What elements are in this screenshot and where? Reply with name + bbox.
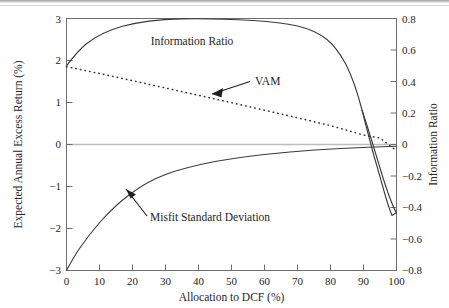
x-tick-label: 10 [94, 275, 106, 287]
right-tick-label: 0.2 [402, 107, 416, 119]
chart-svg: 3 2 1 0 −1 −2 −3 0.8 0.6 0.4 0.2 0 −0.2 … [0, 0, 449, 308]
x-tick-label: 50 [226, 275, 238, 287]
series-information-ratio [67, 19, 397, 216]
series-vam [67, 67, 397, 151]
y-axis-label: Expected Annual Excess Return (%) [12, 60, 25, 228]
left-tick-label: −1 [49, 180, 61, 192]
annotation-misfit-standard-deviation: Misfit Standard Deviation [150, 211, 270, 223]
right-tick-label: −0.2 [402, 170, 422, 182]
right-tick-label: −0.6 [402, 233, 422, 245]
left-tick-label: −2 [49, 222, 61, 234]
left-tick-label: 3 [56, 13, 62, 25]
annotation-misfit-arrow [126, 189, 147, 216]
x-tick-label: 90 [358, 275, 370, 287]
right-axis-ticks [391, 19, 397, 271]
right-tick-label: 0.8 [402, 13, 416, 25]
x-axis-label: Allocation to DCF (%) [179, 291, 285, 304]
x-tick-label: 30 [160, 275, 172, 287]
left-tick-labels: 3 2 1 0 −1 −2 −3 [49, 13, 61, 276]
annotation-vam: VAM [255, 75, 280, 87]
left-tick-label: 1 [56, 96, 62, 108]
right-tick-label: 0 [402, 138, 408, 150]
right-tick-label: 0.6 [402, 44, 416, 56]
x-tick-label: 100 [388, 275, 405, 287]
x-tick-label: 80 [325, 275, 337, 287]
x-tick-label: 60 [259, 275, 271, 287]
x-tick-label: 70 [292, 275, 304, 287]
x-tick-label: 0 [64, 275, 70, 287]
x-tick-label: 20 [127, 275, 139, 287]
series-information-ratio-tail [362, 110, 397, 213]
series-misfit-standard-deviation [67, 146, 397, 270]
left-tick-label: −3 [49, 264, 61, 276]
right-tick-labels: 0.8 0.6 0.4 0.2 0 −0.2 −0.4 −0.6 −0.8 [402, 13, 422, 276]
left-tick-label: 0 [56, 138, 62, 150]
left-axis-ticks [67, 19, 73, 271]
left-tick-label: 2 [56, 54, 62, 66]
bottom-tick-labels: 0 10 20 30 40 50 60 70 80 90 100 [64, 275, 406, 287]
chart-figure: 3 2 1 0 −1 −2 −3 0.8 0.6 0.4 0.2 0 −0.2 … [0, 0, 449, 308]
bottom-axis-ticks [67, 265, 397, 271]
right-tick-label: 0.4 [402, 76, 416, 88]
annotation-vam-arrow [212, 82, 250, 98]
right-tick-label: −0.8 [402, 264, 422, 276]
x-tick-label: 40 [193, 275, 205, 287]
right-tick-label: −0.4 [402, 201, 422, 213]
annotation-information-ratio: Information Ratio [151, 35, 234, 47]
y2-axis-label: Information Ratio [427, 103, 439, 186]
